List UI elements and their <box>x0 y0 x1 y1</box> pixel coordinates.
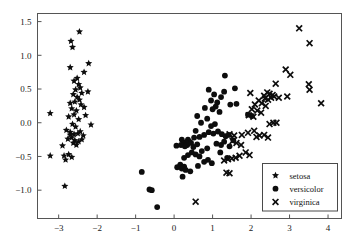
data-point <box>69 44 76 51</box>
data-point <box>154 204 160 210</box>
data-point <box>197 154 203 160</box>
data-point <box>67 64 74 71</box>
data-point <box>193 199 199 205</box>
data-point <box>211 92 217 98</box>
circle-icon <box>273 186 279 192</box>
data-point <box>208 98 214 104</box>
data-point <box>227 143 233 149</box>
data-point <box>191 135 197 141</box>
data-point <box>217 150 223 156</box>
data-point <box>307 40 313 46</box>
data-point <box>276 95 282 101</box>
data-point <box>206 87 212 93</box>
data-point <box>81 68 88 75</box>
x-tick-label: −1 <box>131 223 141 233</box>
data-point <box>76 28 83 35</box>
y-tick-label: 1.0 <box>20 51 32 61</box>
data-point <box>193 128 199 134</box>
legend-label: setosa <box>290 171 311 181</box>
x-tick-label: 3 <box>287 223 292 233</box>
data-point <box>273 81 279 87</box>
series-setosa <box>47 28 95 189</box>
x-tick-label: 4 <box>326 223 331 233</box>
y-tick-label: −0.5 <box>15 152 32 162</box>
legend: setosaversicolorvirginica <box>263 164 338 212</box>
data-point <box>239 132 245 138</box>
x-tick-label: 0 <box>172 223 177 233</box>
y-tick-label: 0.0 <box>20 118 32 128</box>
data-point <box>204 116 210 122</box>
data-point <box>221 139 227 145</box>
data-point <box>222 73 228 79</box>
data-point <box>59 142 66 149</box>
data-point <box>296 25 302 31</box>
data-point <box>287 72 293 78</box>
data-point <box>187 168 193 174</box>
data-point <box>283 67 289 73</box>
data-point <box>198 120 204 126</box>
data-point <box>149 187 155 193</box>
data-point <box>208 123 214 129</box>
data-point <box>180 174 186 180</box>
data-point <box>84 88 91 95</box>
data-point <box>67 37 74 44</box>
x-tick-label: 1 <box>210 223 215 233</box>
data-point <box>78 89 85 96</box>
data-point <box>245 130 251 136</box>
data-point <box>284 94 290 100</box>
data-point <box>209 160 215 166</box>
data-point <box>85 60 92 67</box>
data-point <box>47 152 54 159</box>
legend-label: versicolor <box>290 184 324 194</box>
y-tick-label: −1.0 <box>15 185 32 195</box>
data-point <box>47 110 54 117</box>
data-point <box>234 101 240 107</box>
data-point <box>199 148 205 154</box>
data-point <box>194 141 200 147</box>
data-point <box>87 121 94 128</box>
x-tick-label: −2 <box>92 223 102 233</box>
x-tick-label: −3 <box>54 223 64 233</box>
data-point <box>202 105 208 111</box>
data-point <box>82 112 89 119</box>
data-point <box>75 116 82 123</box>
data-point <box>247 90 253 96</box>
scatter-plot-figure: −3−2−101234−1.0−0.50.00.51.01.5setosaver… <box>0 0 351 247</box>
data-point <box>210 106 216 112</box>
y-tick-label: 0.5 <box>20 84 32 94</box>
data-point <box>227 102 233 108</box>
data-point <box>67 99 74 106</box>
data-point <box>204 145 210 151</box>
data-point <box>217 109 223 115</box>
data-point <box>306 81 312 87</box>
data-point <box>273 186 279 192</box>
data-point <box>218 94 224 100</box>
data-point <box>232 85 238 91</box>
data-point <box>195 163 201 169</box>
data-point <box>251 128 257 134</box>
data-point <box>318 100 324 106</box>
data-point <box>307 87 313 93</box>
plot-canvas: −3−2−101234−1.0−0.50.00.51.01.5setosaver… <box>0 0 351 247</box>
data-point <box>201 159 207 165</box>
data-point <box>181 155 187 161</box>
data-point <box>61 182 68 189</box>
data-point <box>61 152 68 159</box>
x-tick-label: 2 <box>249 223 254 233</box>
data-point <box>182 143 188 149</box>
legend-label: virginica <box>290 197 320 207</box>
data-point <box>139 169 145 175</box>
y-tick-label: 1.5 <box>20 17 32 27</box>
data-point <box>197 134 203 140</box>
data-point <box>221 89 227 95</box>
x-axis: −3−2−101234 <box>54 215 331 233</box>
data-point <box>194 113 200 119</box>
